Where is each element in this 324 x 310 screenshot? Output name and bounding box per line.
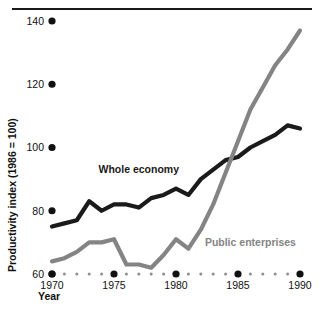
y-tick-dot: [48, 17, 55, 24]
x-tick-label: 1990: [288, 279, 312, 291]
y-tick-dot: [48, 144, 55, 151]
x-tick-dot-minor: [150, 273, 153, 276]
x-tick-dot-minor: [88, 273, 91, 276]
x-axis: 19701975198019851990: [40, 270, 312, 290]
y-axis: 6080100120140: [26, 15, 55, 280]
series-line: [52, 125, 300, 226]
x-tick-dot-minor: [137, 273, 140, 276]
x-tick-dot-minor: [286, 273, 289, 276]
x-tick-dot-major: [296, 270, 303, 277]
x-tick-label: 1985: [226, 279, 250, 291]
x-tick-dot-minor: [187, 273, 190, 276]
y-tick-label: 80: [32, 205, 44, 217]
series-annotation-label: Public enterprises: [205, 236, 296, 248]
x-tick-dot-major: [234, 270, 241, 277]
y-axis-title: Productivity index (1986 = 100): [6, 118, 18, 272]
series-annotation-label: Whole economy: [99, 163, 180, 175]
x-tick-dot-minor: [261, 273, 264, 276]
x-tick-dot-minor: [274, 273, 277, 276]
x-tick-dot-minor: [63, 273, 66, 276]
x-tick-dot-major: [48, 270, 55, 277]
y-tick-dot: [48, 81, 55, 88]
x-tick-label: 1970: [40, 279, 64, 291]
x-tick-label: 1975: [102, 279, 126, 291]
series-line: [52, 30, 300, 267]
x-tick-dot-major: [110, 270, 117, 277]
y-tick-label: 100: [26, 141, 44, 153]
y-tick-label: 120: [26, 78, 44, 90]
x-axis-title: Year: [38, 290, 60, 302]
y-tick-label: 140: [26, 15, 44, 27]
x-tick-dot-minor: [224, 273, 227, 276]
x-tick-dot-minor: [249, 273, 252, 276]
x-tick-dot-minor: [162, 273, 165, 276]
productivity-index-line-chart: 6080100120140 19701975198019851990 Whole…: [0, 0, 324, 310]
x-tick-dot-minor: [199, 273, 202, 276]
x-tick-dot-minor: [100, 273, 103, 276]
x-tick-dot-minor: [125, 273, 128, 276]
x-tick-dot-minor: [75, 273, 78, 276]
chart-figure: 6080100120140 19701975198019851990 Whole…: [0, 0, 324, 310]
x-tick-dot-major: [172, 270, 179, 277]
x-tick-dot-minor: [212, 273, 215, 276]
series-lines: [52, 30, 300, 267]
x-tick-label: 1980: [164, 279, 188, 291]
y-tick-dot: [48, 207, 55, 214]
